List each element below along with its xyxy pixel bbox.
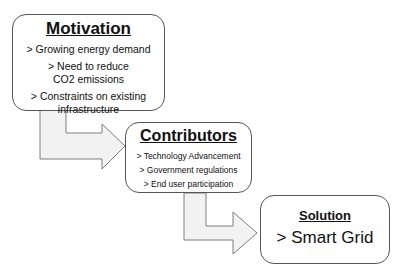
motivation-item: > Constraints on existing infrastructure [29,90,149,116]
solution-title: Solution [261,207,389,225]
solution-item: > Smart Grid [261,227,389,249]
motivation-box: Motivation > Growing energy demand > Nee… [12,14,165,111]
motivation-item: > Need to reduce CO2 emissions [39,60,139,86]
contributors-item: > Technology Advancement [126,149,251,163]
arrow-motivation-to-contributors [40,110,125,169]
contributors-title: Contributors [126,125,251,146]
contributors-item: > End user participation [126,177,251,191]
contributors-item: > Government regulations [126,163,251,177]
solution-box: Solution > Smart Grid [260,195,390,264]
motivation-title: Motivation [13,18,164,40]
contributors-box: Contributors > Technology Advancement > … [125,122,252,193]
arrow-contributors-to-solution [184,193,257,254]
motivation-item: > Growing energy demand [13,43,164,56]
